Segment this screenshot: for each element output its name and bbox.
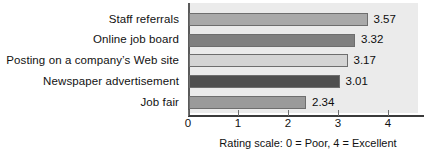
bar-value-label: 3.17 <box>354 55 376 67</box>
x-axis-tick-label: 3 <box>335 118 341 130</box>
bar <box>189 54 348 67</box>
bar <box>189 96 306 109</box>
x-axis-tick-label: 4 <box>385 118 391 130</box>
bar <box>189 13 368 26</box>
bar-row: 3.01 <box>189 71 418 92</box>
x-axis-tick <box>288 110 289 116</box>
category-label: Posting on a company’s Web site <box>0 51 184 72</box>
chart-caption: Rating scale: 0 = Poor, 4 = Excellent <box>188 138 428 149</box>
bar <box>189 75 340 88</box>
bar <box>189 34 355 47</box>
x-axis-tick <box>188 110 189 116</box>
x-axis-tick-label: 0 <box>185 118 191 130</box>
bar-row: 3.32 <box>189 30 418 51</box>
x-axis-ticks <box>188 110 418 117</box>
x-axis-tick <box>238 110 239 116</box>
bar-row: 3.17 <box>189 51 418 72</box>
bar-row: 3.57 <box>189 9 418 30</box>
bar-value-label: 3.57 <box>374 14 396 26</box>
x-axis-tick <box>388 110 389 116</box>
bar-chart: Staff referrals Online job board Posting… <box>0 0 434 157</box>
x-axis-tick-labels: 01234 <box>188 118 418 133</box>
category-label: Newspaper advertisement <box>0 71 184 92</box>
category-label: Staff referrals <box>0 9 184 30</box>
bar-value-label: 3.32 <box>361 34 383 46</box>
bar-series: 3.57 3.32 3.17 3.01 2.34 <box>189 9 418 113</box>
category-label-column: Staff referrals Online job board Posting… <box>0 9 184 113</box>
x-axis-tick <box>338 110 339 116</box>
x-axis-tick-label: 2 <box>285 118 291 130</box>
category-label: Online job board <box>0 30 184 51</box>
bar-value-label: 3.01 <box>346 76 368 88</box>
bar-value-label: 2.34 <box>312 97 334 109</box>
category-label: Job fair <box>0 92 184 113</box>
x-axis-tick-label: 1 <box>235 118 241 130</box>
